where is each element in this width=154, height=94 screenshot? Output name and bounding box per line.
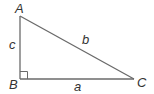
vertex-label-a: A: [15, 2, 24, 15]
side-label-c: c: [9, 38, 16, 51]
side-b-line: [20, 16, 134, 79]
vertex-label-b: B: [9, 78, 18, 91]
side-label-b: b: [82, 33, 89, 46]
vertex-label-c: C: [137, 76, 146, 89]
right-angle-marker-icon: [20, 72, 28, 80]
side-label-a: a: [74, 80, 81, 93]
